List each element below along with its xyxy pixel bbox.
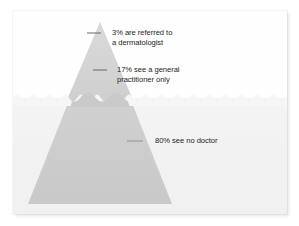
waterline [13, 95, 287, 107]
callout-general-practitioner: 17% see a general practitioner only [117, 65, 179, 84]
diagram-panel: 3% are referred to a dermatologist 17% s… [13, 11, 287, 214]
callout-dermatologist: 3% are referred to a dermatologist [112, 28, 172, 47]
figure-root: 3% are referred to a dermatologist 17% s… [0, 0, 299, 226]
callout-no-doctor: 80% see no doctor [155, 136, 217, 146]
callout-dermatologist-line1: 3% are referred to [112, 28, 172, 37]
callout-no-doctor-line1: 80% see no doctor [155, 136, 217, 145]
callout-dermatologist-line2: a dermatologist [112, 38, 172, 48]
callout-general-practitioner-line1: 17% see a general [117, 65, 179, 74]
callout-general-practitioner-line2: practitioner only [117, 75, 179, 85]
